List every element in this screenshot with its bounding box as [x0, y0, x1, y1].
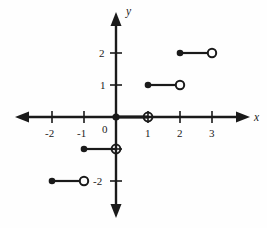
- x-tick-label-neg2: -2: [45, 128, 54, 139]
- x-tick-label-neg1: -1: [77, 128, 86, 139]
- closed-endpoint: [81, 146, 88, 153]
- y-tick-label-2: 2: [99, 48, 105, 59]
- step-segment-3: [112, 113, 152, 122]
- step-segment-1: [49, 177, 89, 185]
- open-endpoint: [208, 49, 216, 57]
- closed-endpoint: [49, 178, 56, 185]
- step-segment-5: [177, 49, 217, 57]
- coordinate-plane-svg: [0, 0, 267, 228]
- y-axis-label: y: [126, 6, 131, 18]
- x-axis-label: x: [254, 112, 259, 124]
- origin-label: 0: [102, 124, 108, 135]
- step-segment-4: [145, 81, 185, 89]
- open-endpoint: [176, 81, 184, 89]
- x-axis-arrow-right: [236, 112, 250, 123]
- y-tick-label-neg2: -2: [93, 176, 102, 187]
- step-segment-2: [81, 145, 121, 154]
- closed-endpoint: [145, 82, 152, 89]
- open-endpoint: [80, 177, 88, 185]
- x-axis-arrow-left: [15, 112, 29, 123]
- x-tick-label-2: 2: [177, 128, 183, 139]
- closed-endpoint: [112, 113, 119, 120]
- y-axis-arrow-up: [111, 12, 122, 26]
- y-axis-arrow-down: [111, 204, 122, 218]
- y-tick-label-1: 1: [100, 80, 106, 91]
- closed-endpoint: [177, 50, 184, 57]
- x-tick-label-1: 1: [145, 128, 151, 139]
- x-tick-label-3: 3: [209, 128, 215, 139]
- graph-figure: -2 -1 1 2 3 0 2 1 -2 x y: [0, 0, 267, 228]
